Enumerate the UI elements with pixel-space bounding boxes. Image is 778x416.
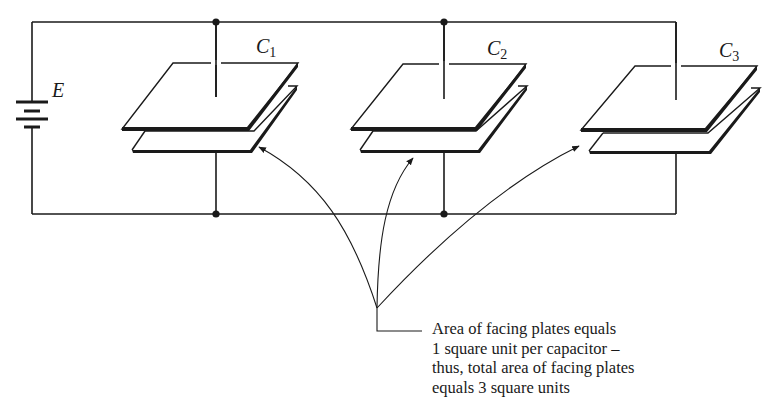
leader-elbow <box>377 308 422 331</box>
caption-line: Area of facing plates equals <box>432 319 635 339</box>
junction-dot <box>212 210 219 217</box>
circuit-schematic <box>0 0 778 416</box>
annotation-leaders <box>259 146 579 331</box>
leader-arrow-c2 <box>377 158 413 308</box>
capacitor-label-c2: C2 <box>487 38 507 62</box>
circuit-diagram: E C1 C2 C3 Area of facing plates equals … <box>0 0 778 416</box>
c1-top-plate <box>122 63 298 129</box>
leader-arrow-c1 <box>259 147 377 308</box>
capacitor-label-c1: C1 <box>256 36 276 60</box>
battery-icon <box>16 102 48 127</box>
caption-line: equals 3 square units <box>432 378 635 398</box>
leader-arrow-c3 <box>377 146 579 308</box>
junction-dot <box>440 210 447 217</box>
caption-line: 1 square unit per capacitor – <box>432 339 635 359</box>
caption-line: thus, total area of facing plates <box>432 358 635 378</box>
capacitor-label-c3: C3 <box>719 40 739 64</box>
source-label: E <box>52 80 64 100</box>
annotation-caption: Area of facing plates equals 1 square un… <box>432 319 635 397</box>
wiring <box>32 22 676 214</box>
